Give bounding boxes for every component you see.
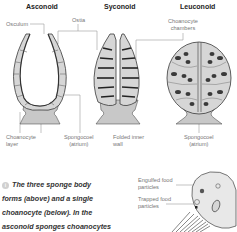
label-engulfed-line1: Engulfed food — [138, 177, 173, 184]
label-osculum: Osculum — [6, 21, 28, 28]
label-choanocyte-layer-line2: layer — [6, 141, 36, 148]
label-trapped-line1: Trapped food — [138, 196, 171, 203]
label-choanocyte-layer: Choanocyte layer — [6, 134, 36, 147]
caption-line-2: forms (above) and a single — [2, 192, 130, 206]
label-folded-inner-wall: Folded inner wall — [113, 134, 144, 147]
label-folded-inner-wall-line2: wall — [113, 141, 144, 148]
info-icon: i — [2, 182, 9, 189]
label-ostia: Ostia — [72, 17, 85, 24]
label-choanocyte-chambers-line2: chambers — [168, 25, 198, 32]
caption-line-3: choanocyte (below). In the — [2, 206, 130, 220]
label-choanocyte-layer-line1: Choanocyte — [6, 134, 36, 141]
asconoid-drawing — [13, 34, 66, 124]
leuconoid-drawing — [167, 42, 231, 124]
label-spongocoel-asconoid-line2: (atrium) — [64, 141, 94, 148]
choanocyte-drawing — [172, 172, 236, 232]
label-spongocoel-leuconoid: Spongocoel (atrium) — [184, 134, 214, 147]
label-spongocoel-leuconoid-line2: (atrium) — [184, 141, 214, 148]
label-folded-inner-wall-line1: Folded inner — [113, 134, 144, 141]
label-spongocoel-asconoid: Spongocoel (atrium) — [64, 134, 94, 147]
caption-line-1-text: The three sponge body — [12, 180, 91, 189]
syconoid-drawing — [94, 34, 140, 124]
label-choanocyte-chambers: Choanocyte chambers — [168, 18, 198, 31]
label-engulfed-food-particles: Engulfed food particles — [138, 177, 173, 190]
caption-line-1: iThe three sponge body — [2, 178, 130, 192]
label-choanocyte-chambers-line1: Choanocyte — [168, 18, 198, 25]
label-spongocoel-leuconoid-line1: Spongocoel — [184, 134, 214, 141]
label-spongocoel-asconoid-line1: Spongocoel — [64, 134, 94, 141]
label-trapped-food-particles: Trapped food particles — [138, 196, 171, 209]
caption-line-4: asconoid sponges choanocytes — [2, 220, 130, 232]
label-trapped-line2: particles — [138, 203, 171, 210]
figure-caption: iThe three sponge body forms (above) and… — [2, 178, 130, 232]
label-engulfed-line2: particles — [138, 184, 173, 191]
